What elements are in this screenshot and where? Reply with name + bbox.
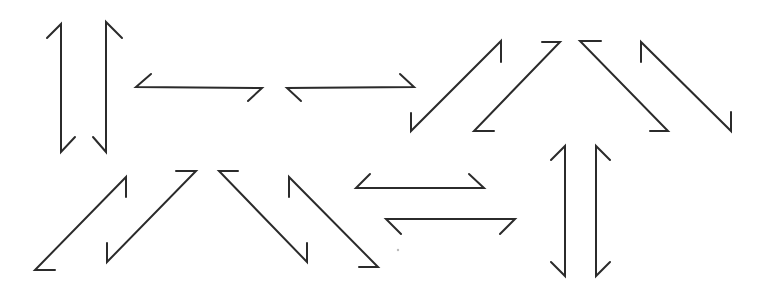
arrow-path [107,171,196,262]
arrow-path [219,171,307,262]
arrow-group [35,22,731,276]
diagonal-down-right-3-arrow-icon [219,171,307,262]
horizontal-right-top-arrow-icon [287,74,414,101]
arrow-path [287,74,414,101]
arrow-path [47,24,75,152]
arrow-path [596,146,610,276]
arrow-diagram [0,0,764,292]
vertical-double-left-arrow-icon [551,146,565,276]
horizontal-left-top-arrow-icon [136,74,262,101]
horizontal-double-upper-arrow-icon [356,174,484,188]
horizontal-double-lower-arrow-icon [386,219,515,234]
arrow-path [136,74,262,101]
vertical-double-right-arrow-icon [596,146,610,276]
arrow-path [356,174,484,188]
diagonal-up-right-4-arrow-icon [107,171,196,262]
vertical-down-right-arrow-icon [93,22,122,152]
arrow-path [93,22,122,152]
arrow-path [551,146,565,276]
stray-speck [397,249,399,251]
arrow-path [386,219,515,234]
vertical-up-left-arrow-icon [47,24,75,152]
arrow-path [289,177,378,267]
diagonal-down-right-4-arrow-icon [289,177,378,267]
